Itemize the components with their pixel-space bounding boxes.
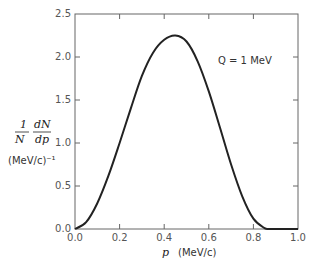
y-label-dn: dN: [34, 118, 51, 131]
y-units: (MeV/c)⁻¹: [8, 155, 56, 166]
svg-text:1.5: 1.5: [55, 94, 71, 105]
svg-text:1.0: 1.0: [290, 232, 306, 243]
x-label-var: p: [162, 246, 169, 259]
y-label-dp: dp: [35, 133, 49, 146]
x-units: (MeV/c): [178, 247, 216, 258]
svg-text:2.0: 2.0: [55, 51, 71, 62]
chart: 0.00.20.40.60.81.00.00.51.01.52.02.5 Q =…: [0, 0, 313, 264]
svg-text:2.5: 2.5: [55, 8, 71, 19]
svg-text:0.0: 0.0: [55, 223, 71, 234]
q-annotation: Q = 1 MeV: [218, 55, 272, 66]
svg-text:0.5: 0.5: [55, 180, 71, 191]
y-label-one: 1: [20, 118, 27, 131]
svg-text:0.8: 0.8: [245, 232, 261, 243]
svg-text:0.6: 0.6: [201, 232, 217, 243]
svg-text:0.4: 0.4: [156, 232, 172, 243]
y-label-n: N: [14, 133, 25, 146]
plot-frame: [75, 14, 298, 229]
svg-text:0.2: 0.2: [112, 232, 128, 243]
svg-text:1.0: 1.0: [55, 137, 71, 148]
axis-ticks: 0.00.20.40.60.81.00.00.51.01.52.02.5: [55, 8, 306, 243]
